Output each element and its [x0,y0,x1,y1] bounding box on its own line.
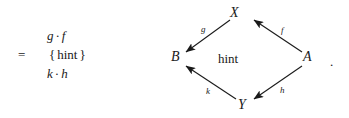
hint-text: hint [57,47,77,62]
composition-operator-top: · [54,28,62,43]
figure-canvas: g·f = {hint} k·h X [0,0,349,118]
arrow-label-k: k [206,87,210,96]
expression-bottom: k·h [35,64,138,83]
expression-bottom-right: h [61,66,68,81]
proof-line-hint: = {hint} [18,45,138,64]
expression-top: g·f [35,26,138,45]
hint-expression: {hint} [35,45,138,64]
commutative-diagram: X B A Y hint g f k h . [150,0,349,118]
arrow-label-g: g [201,25,206,34]
relation-symbol-equals: = [18,45,35,64]
diagram-node-x: X [230,6,239,20]
hint-open-brace: { [47,47,57,62]
hint-close-brace: } [77,47,87,62]
arrow-f [254,20,302,52]
arrow-g [186,20,230,52]
diagram-node-y: Y [238,98,246,112]
trailing-period: . [330,54,333,70]
proof-line-expression-top: g·f [18,26,138,45]
expression-top-right: f [62,28,66,43]
arrow-h [254,66,302,99]
diagram-node-a: A [303,50,312,64]
proof-step-block: g·f = {hint} k·h [18,26,138,83]
diagram-node-b: B [171,50,180,64]
proof-line-expression-bottom: k·h [18,64,138,83]
composition-operator-bottom: · [53,66,61,81]
arrow-label-h: h [280,86,285,95]
expression-top-left: g [47,28,54,43]
expression-bottom-left: k [47,66,53,81]
arrow-k [186,66,236,99]
arrow-label-f: f [281,26,284,35]
diagram-center-hint: hint [218,51,238,67]
